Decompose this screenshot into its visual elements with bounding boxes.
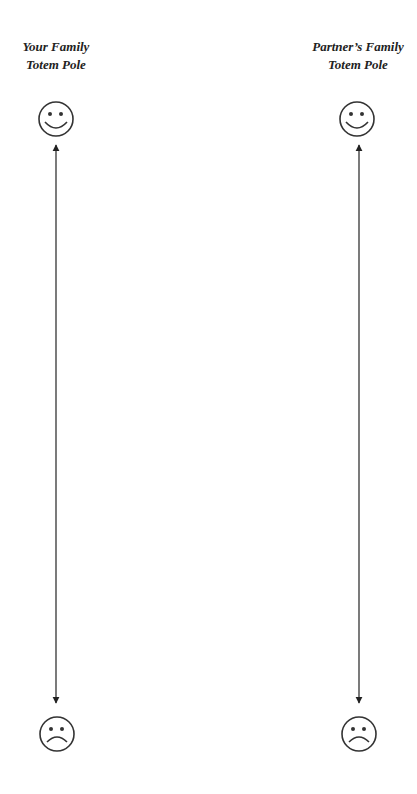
totem-pole-diagram [0,0,417,794]
right-sad-face-icon [342,717,376,751]
left-sad-face-icon [40,717,74,751]
left-smiley-face-icon [39,102,73,136]
right-smiley-face-icon [340,102,374,136]
